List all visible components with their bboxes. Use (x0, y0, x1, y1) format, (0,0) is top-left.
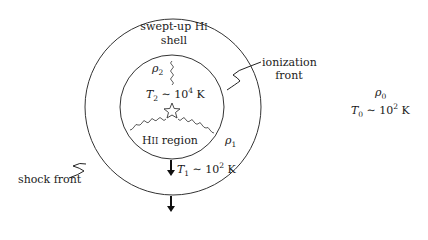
ionization-front-line2: front (275, 69, 302, 82)
photon-wave-right (178, 118, 214, 133)
rho1-label: ρ1 (225, 134, 236, 147)
t2-label: T2 ∼ 104 K (146, 88, 205, 101)
t0-rel: ∼ 10 (363, 104, 393, 117)
shell-label-line1: swept-up H (140, 20, 204, 33)
shock-front-label: shock front (18, 173, 81, 186)
ionization-front-label: ionization front (262, 56, 316, 82)
t2-unit: K (193, 88, 205, 101)
hii-prefix: H (142, 134, 152, 147)
rho1-sub: 1 (231, 140, 236, 149)
t1-unit: K (224, 163, 236, 176)
shell-label: swept-up HI shell (132, 20, 216, 47)
shock-front-arrowhead (167, 206, 175, 212)
rho0-label: ρ0 (375, 86, 386, 99)
t0-unit: K (398, 104, 410, 117)
shell-label-line2: shell (161, 34, 187, 47)
photon-wave-left (130, 118, 166, 131)
t1-label: T1 ∼ 102 K (177, 163, 236, 176)
ionization-front-pointer (227, 62, 261, 90)
star-icon (164, 103, 180, 118)
hii-region-label: HII region (142, 134, 198, 148)
ionization-front-line1: ionization (262, 56, 317, 69)
ionization-front-arrowhead (167, 170, 175, 176)
t2-rel: ∼ 10 (158, 88, 188, 101)
rho2-sub: 2 (158, 68, 163, 77)
shock-front-text: shock front (18, 173, 81, 186)
t1-rel: ∼ 10 (189, 163, 219, 176)
shell-label-roman: I (204, 22, 207, 32)
hii-suffix: region (158, 134, 198, 147)
rho2-label: ρ2 (152, 62, 163, 75)
t0-label: T0 ∼ 102 K (351, 104, 410, 117)
photon-wave-up (171, 61, 174, 85)
rho0-sub: 0 (381, 92, 386, 101)
